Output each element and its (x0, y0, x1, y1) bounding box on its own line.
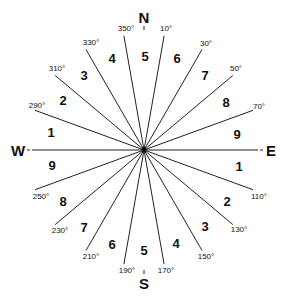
degree-label: 30° (200, 39, 212, 48)
sector-number: 9 (233, 127, 240, 142)
sector-number: 6 (108, 237, 115, 252)
compass-rose-diagram: NSWE350°10°330°30°310°50°290°70°250°110°… (0, 0, 285, 296)
ray-230 (55, 150, 144, 225)
sector-number: 1 (47, 125, 54, 140)
sector-number: 2 (223, 194, 230, 209)
degree-label: 50° (230, 64, 242, 73)
sector-number: 4 (172, 236, 180, 251)
sector-number: 7 (201, 68, 208, 83)
cardinal-w: W (11, 142, 26, 159)
sector-number: 5 (141, 49, 148, 64)
ray-50 (144, 75, 233, 150)
sector-number: 3 (80, 68, 87, 83)
sector-number: 2 (59, 93, 66, 108)
degree-label: 110° (251, 192, 267, 201)
sector-number: 3 (201, 219, 208, 234)
sector-number: 9 (48, 158, 55, 173)
cardinal-s: S (139, 275, 149, 292)
degree-label: 210° (83, 252, 100, 261)
center-point (142, 148, 147, 153)
sector-number: 1 (235, 159, 242, 174)
degree-label: 330° (83, 38, 100, 47)
sector-number: 6 (173, 51, 180, 66)
sector-number: 5 (140, 243, 147, 258)
cardinal-e: E (266, 142, 276, 159)
ray-310 (55, 75, 144, 150)
degree-label: 150° (198, 252, 215, 261)
degree-label: 310° (49, 64, 66, 73)
degree-label: 70° (253, 102, 265, 111)
cardinal-n: N (139, 9, 150, 26)
sector-number: 8 (59, 194, 66, 209)
sector-number: 4 (108, 51, 116, 66)
degree-label: 170° (158, 266, 175, 275)
degree-label: 250° (33, 192, 50, 201)
ray-130 (144, 150, 233, 225)
degree-label: 130° (231, 225, 248, 234)
degree-label: 350° (118, 24, 135, 33)
degree-label: 230° (52, 226, 69, 235)
sector-number: 8 (222, 95, 229, 110)
degree-label: 190° (119, 266, 136, 275)
sector-number: 7 (80, 220, 87, 235)
degree-label: 10° (160, 24, 172, 33)
degree-label: 290° (29, 101, 46, 110)
